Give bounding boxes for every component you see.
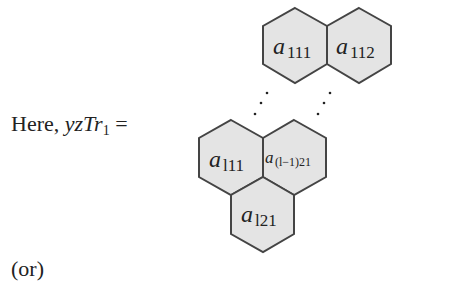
hex-label-base: a bbox=[209, 146, 221, 172]
hexagon-a112: a 112 bbox=[327, 8, 391, 83]
hex-label-sub: l11 bbox=[223, 156, 244, 175]
hex-label-base: a bbox=[273, 33, 285, 59]
hex-label-base: a bbox=[336, 33, 348, 59]
vertical-ellipsis-right bbox=[317, 92, 332, 116]
vertical-ellipsis-left bbox=[254, 92, 269, 116]
hex-label-base: a bbox=[265, 148, 274, 167]
trailing-text: (or) bbox=[11, 256, 44, 282]
hex-label-base: a bbox=[241, 201, 253, 227]
hex-label-sub: l21 bbox=[255, 211, 277, 230]
hexagon-a111: a 111 bbox=[263, 8, 327, 83]
hex-label-sub: (l−1)21 bbox=[275, 155, 311, 169]
hex-label-sub: 111 bbox=[287, 43, 311, 62]
hex-label-sub: 112 bbox=[350, 43, 375, 62]
hexagon-diagram: a 111 a 112 a l11 a (l−1)21 a l21 bbox=[0, 0, 470, 295]
